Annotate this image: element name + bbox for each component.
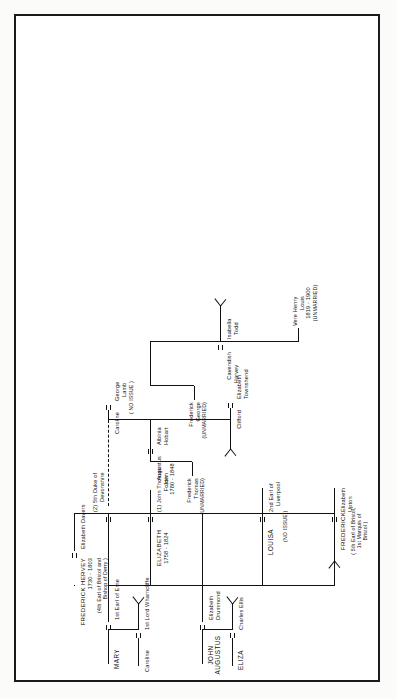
connector (74, 585, 75, 586)
connector-elizabeth-marriage1 (150, 490, 151, 514)
node-frederick-thomas: Frederick Thomas (UNMARRIED) (186, 478, 205, 526)
node-frederick5-name: FREDERICK (340, 508, 347, 554)
marriage-equals-caroline-lamb (106, 405, 111, 410)
node-caroline-lamb-name: Caroline (114, 412, 121, 460)
connector-louisa (262, 488, 263, 514)
connector-frederick-thomas (150, 461, 192, 462)
marriage-equals-louisa (260, 517, 265, 522)
node-elizabeth-name: ELIZABETH 1758 - 1824 (156, 522, 169, 574)
node-louisa-name: LOUISA (268, 522, 275, 562)
connector (108, 629, 138, 630)
chart-rotated-stage: MARY 1st Earl of Erne Caroline 1st Lord … (14, 14, 380, 682)
node-cavendish-harvey: Cavendish Harvey (226, 352, 239, 396)
descendants-fork-cavendish (214, 293, 227, 306)
node-george-lamb: George Lamb (114, 341, 127, 401)
connector (334, 522, 335, 556)
connector (194, 386, 195, 400)
connector-dashed-illegitimate (108, 420, 109, 506)
marriage-equals-hervey (72, 553, 77, 558)
node-frederick-george: Frederick George (UNMARRIED) (188, 402, 207, 450)
node-isabella-todd: Isabella Todd (226, 289, 239, 339)
connector (138, 638, 139, 666)
marriage-equals-cavendish (218, 345, 223, 350)
node-charles-ellis: Charles Ellis (238, 550, 245, 630)
connector (262, 514, 263, 586)
connector (230, 420, 231, 444)
connector-cavendish (220, 328, 221, 342)
node-caroline-wharncliffe-name: Caroline (144, 640, 151, 682)
node-frederick-hervey-titles: (4th Earl of Bristol and Bishop of Derry… (96, 558, 108, 642)
chart-page: MARY 1st Earl of Erne Caroline 1st Lord … (0, 0, 397, 699)
node-augustus-john: Augustus John 1780 - 1848 (156, 456, 176, 502)
connector-vere (298, 328, 299, 342)
connector-clifford (230, 408, 231, 420)
connector (150, 420, 151, 462)
marriage-equals-augustus-john (148, 449, 153, 454)
chart-canvas: MARY 1st Earl of Erne Caroline 1st Lord … (14, 14, 380, 682)
node-frederick-hervey: FREDERICK HERVEY 1730 - 1803 (80, 558, 93, 638)
node-louisa-note: (NO ISSUE ) (282, 482, 288, 542)
connector (108, 513, 150, 514)
marriage-equals-elizabeth-1 (148, 517, 153, 522)
node-duke-of-devonshire: (2) 5th Duke of Devonshire (92, 432, 105, 512)
connector-frederick5 (334, 488, 335, 514)
connector-john-augustus (202, 586, 203, 622)
node-eliza-name: ELIZA (238, 640, 245, 680)
node-mary-spouse: 1st Earl of Erne (114, 540, 121, 620)
node-albinia-hobart: Albinia Hobart (156, 395, 169, 445)
connector-augustus-children (150, 341, 298, 342)
connector (202, 630, 203, 664)
connector-frederick-george (150, 385, 194, 386)
marriage-equals-clifford (228, 403, 233, 408)
node-elizabeth-upton: Elizabeth Upton (340, 452, 353, 512)
marriage-equals-elizabeth-2 (106, 517, 111, 522)
connector (202, 629, 232, 630)
connector-caroline-lamb (108, 410, 109, 420)
node-clifford-name: Clifford (236, 410, 243, 456)
node-louisa-spouse: 2nd Earl of Liverpool (268, 442, 281, 512)
descendants-fork-frederick5 (328, 561, 341, 574)
node-vere-henry-louis: Vere Henry Louis 1819 - 1900 (UNMARRIED) (292, 266, 318, 326)
node-mary-name: MARY (114, 642, 121, 676)
node-caroline-wharncliffe-spouse: 1st Lord Wharncliffe (144, 540, 151, 630)
node-elizabeth-drummond: Elizabeth Drummond (208, 550, 221, 620)
node-caroline-lamb-note: ( NO ISSUE ) (128, 354, 134, 414)
connector (192, 462, 193, 476)
node-john-augustus-name: JOHN AUGUSTUS (208, 632, 221, 678)
node-elizabeth-davers: Elizabeth Davers (80, 469, 87, 549)
connector-marriage-hervey (74, 513, 75, 551)
connector (232, 638, 233, 666)
connector (150, 342, 151, 386)
